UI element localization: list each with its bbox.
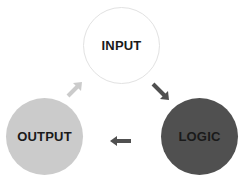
arrows [0, 0, 240, 187]
arrow-input-to-logic-icon [153, 84, 169, 100]
arrow-output-to-input-icon [68, 82, 82, 96]
arrow-logic-to-output-icon [110, 136, 131, 146]
